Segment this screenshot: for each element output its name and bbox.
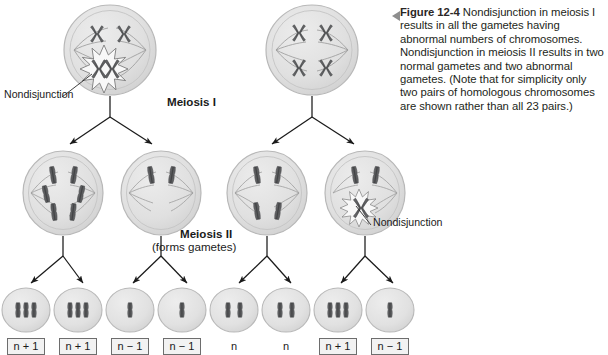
- label-meiosis-2: Meiosis II: [180, 227, 232, 240]
- gamete-4: [158, 288, 206, 332]
- parent-cell-right: [266, 5, 358, 95]
- gamete-6: [262, 288, 310, 332]
- gamete-3: [106, 288, 154, 332]
- ploidy-label-6: n: [276, 338, 296, 355]
- figure-number: Figure 12-4: [400, 6, 460, 18]
- figure-caption-text: Nondisjunction in meiosis I results in a…: [400, 6, 604, 112]
- m1-cell-3: [227, 151, 307, 235]
- gamete-1: [2, 288, 50, 332]
- gamete-8: [366, 288, 414, 332]
- gamete-5: [210, 288, 258, 332]
- ploidy-label-3: n − 1: [111, 338, 150, 355]
- ploidy-label-1: n + 1: [7, 338, 46, 355]
- gamete-7: [314, 288, 362, 332]
- label-meiosis-1: Meiosis I: [167, 95, 216, 108]
- caption-triangle-icon: [392, 11, 400, 21]
- m1-cell-1: [23, 151, 103, 235]
- m1-cell-2: [121, 151, 201, 235]
- figure-caption: Figure 12-4 Nondisjunction in meiosis I …: [400, 6, 604, 113]
- ploidy-label-8: n − 1: [371, 338, 410, 355]
- parent-cell-left: [64, 5, 156, 95]
- label-nondisjunction-1: Nondisjunction: [4, 88, 74, 100]
- ploidy-label-4: n − 1: [163, 338, 202, 355]
- gamete-2: [54, 288, 102, 332]
- ploidy-label-7: n + 1: [319, 338, 358, 355]
- label-meiosis-2-sub: (forms gametes): [152, 240, 236, 253]
- label-nondisjunction-2: Nondisjunction: [373, 216, 443, 228]
- ploidy-label-2: n + 1: [59, 338, 98, 355]
- ploidy-label-5: n: [224, 338, 244, 355]
